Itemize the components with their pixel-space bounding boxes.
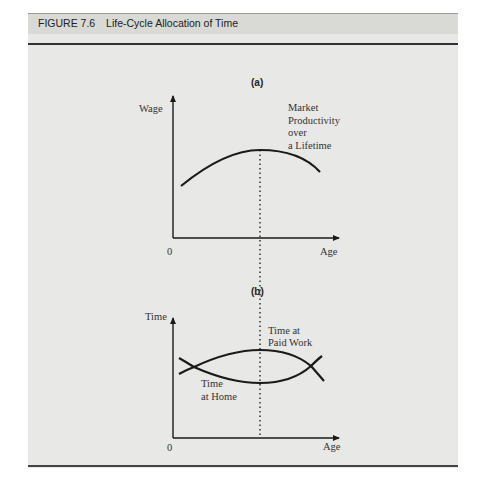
market-label-2: Productivity <box>288 115 341 126</box>
origin-label-a: 0 <box>167 246 172 257</box>
time-axis-label: Time <box>145 311 167 322</box>
paid-work-curve <box>179 350 324 381</box>
panel-b-axes <box>173 318 339 438</box>
market-label-3: over <box>288 127 307 138</box>
market-label-1: Market <box>288 102 318 113</box>
origin-label-b: 0 <box>167 442 172 453</box>
life-cycle-chart: (a) Wage 0 Age Market Productivity over … <box>0 0 479 487</box>
productivity-curve <box>181 150 320 186</box>
paid-work-label-2: Paid Work <box>268 337 313 348</box>
wage-axis-label: Wage <box>139 103 163 114</box>
home-label-1: Time <box>201 378 223 389</box>
market-label-4: a Lifetime <box>288 140 332 151</box>
panel-b-label: (b) <box>251 286 264 297</box>
paid-work-label-1: Time at <box>268 325 300 336</box>
panel-a-label: (a) <box>251 77 263 88</box>
age-axis-label-a: Age <box>320 246 338 257</box>
home-label-2: at Home <box>201 391 237 402</box>
age-axis-label-b: Age <box>323 441 341 452</box>
